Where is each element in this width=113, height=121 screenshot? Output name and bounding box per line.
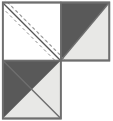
quilt-block-diagram: [0, 0, 113, 121]
block-illustration: [0, 0, 113, 121]
unit-top-right: [61, 3, 110, 61]
unit-bottom-left: [3, 61, 61, 119]
